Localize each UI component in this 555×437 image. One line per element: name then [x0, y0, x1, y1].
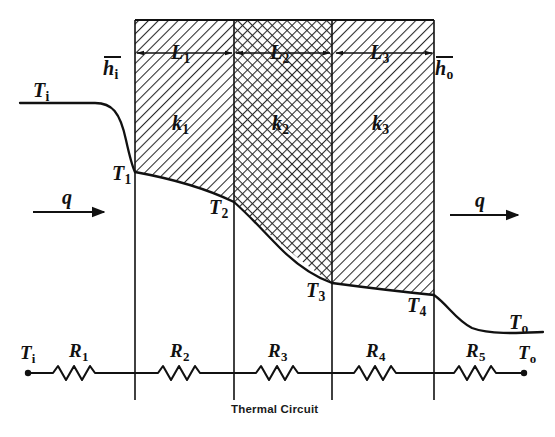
thickness-label-L2: L2: [270, 42, 289, 65]
temperature-label-Ti: Ti: [33, 80, 49, 103]
circuit-node-inlet: [25, 370, 31, 376]
temperature-label-T2: T2: [209, 197, 228, 220]
resistor-label-R3: R3: [268, 341, 287, 364]
heat-flux-label-inlet: q: [62, 186, 72, 209]
h-outer-label: ho: [435, 58, 453, 81]
circuit-label-Ti: Ti: [20, 343, 35, 366]
thermal-wall-diagram: [0, 0, 555, 437]
conductivity-label-k3: k3: [372, 113, 389, 136]
h-inner-label: hi: [103, 58, 118, 81]
heat-flux-label-outlet: q: [475, 189, 485, 212]
temperature-label-T4: T4: [407, 295, 426, 318]
temperature-label-To: To: [509, 312, 528, 335]
resistor-label-R1: R1: [69, 341, 88, 364]
thickness-label-L1: L1: [171, 42, 190, 65]
temperature-label-T1: T1: [112, 163, 131, 186]
resistor-label-R5: R5: [466, 341, 485, 364]
circuit-label-To: To: [518, 343, 536, 366]
conductivity-label-k2: k2: [272, 113, 289, 136]
resistor-label-R2: R2: [170, 341, 189, 364]
conductivity-label-k1: k1: [172, 113, 189, 136]
figure-caption: Thermal Circuit: [231, 403, 318, 415]
circuit-node-outlet: [521, 370, 527, 376]
figure-canvas: hi ho L1 L2 L3 k1 k2 k3 Ti T1 T2 T3 T4 T…: [0, 0, 555, 437]
thermal-circuit-wire: [28, 366, 524, 380]
temperature-label-T3: T3: [306, 280, 325, 303]
thickness-label-L3: L3: [370, 42, 389, 65]
resistor-label-R4: R4: [366, 341, 385, 364]
